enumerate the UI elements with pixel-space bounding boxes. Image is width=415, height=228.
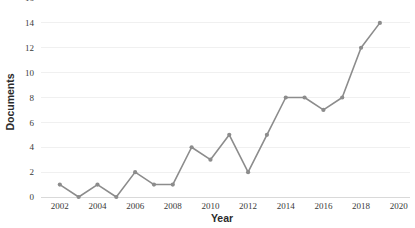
data-point-marker xyxy=(378,21,382,25)
data-point-marker xyxy=(58,182,62,186)
data-point-marker xyxy=(265,133,269,137)
data-point-marker xyxy=(114,195,118,199)
data-point-marker xyxy=(152,182,156,186)
y-tick-label: 6 xyxy=(30,118,35,128)
data-point-marker xyxy=(171,182,175,186)
series-line xyxy=(60,23,380,197)
x-tick-label: 2020 xyxy=(390,201,409,211)
x-axis-title: Year xyxy=(192,212,252,224)
x-tick-label: 2006 xyxy=(126,201,145,211)
y-tick-label: 4 xyxy=(30,142,35,152)
chart-plot-area: 0246810121416 20022004200620082010201220… xyxy=(0,0,415,228)
x-tick-label: 2010 xyxy=(201,201,220,211)
x-tick-label: 2018 xyxy=(352,201,371,211)
data-point-marker xyxy=(227,133,231,137)
y-axis-title: Documents xyxy=(4,70,16,134)
y-tick-label: 8 xyxy=(30,93,35,103)
x-tick-label: 2004 xyxy=(88,201,107,211)
y-tick-label: 0 xyxy=(30,192,35,202)
data-point-marker xyxy=(246,170,250,174)
data-point-marker xyxy=(340,95,344,99)
data-point-marker xyxy=(302,95,306,99)
y-tick-label: 12 xyxy=(25,43,34,53)
y-tick-label: 2 xyxy=(30,167,35,177)
data-point-marker xyxy=(359,46,363,50)
x-tick-label: 2002 xyxy=(51,201,69,211)
data-point-marker xyxy=(208,158,212,162)
data-point-marker xyxy=(190,145,194,149)
y-tick-label: 10 xyxy=(25,68,35,78)
y-axis-ticks: 0246810121416 xyxy=(25,0,35,202)
y-tick-label: 16 xyxy=(25,0,35,3)
x-axis-ticks: 2002200420062008201020122014201620182020 xyxy=(51,201,408,211)
x-tick-label: 2012 xyxy=(239,201,257,211)
data-point-marker xyxy=(95,182,99,186)
x-tick-label: 2008 xyxy=(164,201,183,211)
x-tick-label: 2016 xyxy=(314,201,333,211)
line-chart: 0246810121416 20022004200620082010201220… xyxy=(0,0,415,228)
data-point-marker xyxy=(133,170,137,174)
data-point-marker xyxy=(77,195,81,199)
y-tick-label: 14 xyxy=(25,18,35,28)
data-point-marker xyxy=(284,95,288,99)
gridlines xyxy=(41,0,410,197)
x-tick-label: 2014 xyxy=(277,201,296,211)
data-point-marker xyxy=(321,108,325,112)
